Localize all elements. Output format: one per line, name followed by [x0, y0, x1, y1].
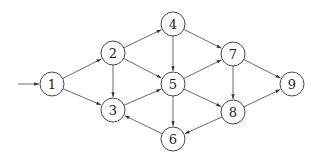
edge-4-to-7 — [184, 29, 222, 48]
directed-graph-diagram: 123456789 — [0, 0, 321, 165]
node-label: 6 — [169, 132, 177, 147]
edge-7-to-9 — [244, 59, 281, 78]
node-4: 4 — [161, 12, 185, 36]
node-3: 3 — [101, 98, 125, 122]
node-label: 2 — [109, 46, 117, 61]
edge-5-to-7 — [184, 60, 222, 79]
node-label: 5 — [169, 77, 177, 92]
node-label: 9 — [288, 77, 296, 92]
node-label: 3 — [109, 103, 117, 118]
node-5: 5 — [161, 72, 185, 96]
node-8: 8 — [221, 100, 245, 124]
node-label: 4 — [169, 17, 177, 32]
node-layer: 123456789 — [40, 12, 304, 151]
node-7: 7 — [221, 42, 245, 66]
node-9: 9 — [280, 72, 304, 96]
edge-2-to-4 — [124, 30, 161, 48]
edge-5-to-8 — [184, 89, 221, 106]
node-label: 1 — [48, 77, 56, 92]
edge-1-to-2 — [63, 59, 102, 79]
edge-8-to-6 — [185, 117, 222, 134]
node-6: 6 — [161, 127, 185, 151]
edge-6-to-3 — [125, 116, 162, 134]
edge-8-to-9 — [244, 90, 280, 107]
edge-2-to-5 — [124, 59, 162, 79]
node-label: 7 — [229, 47, 237, 62]
node-2: 2 — [101, 41, 125, 65]
edge-3-to-5 — [124, 89, 161, 105]
node-label: 8 — [229, 105, 237, 120]
node-1: 1 — [40, 72, 64, 96]
edge-1-to-3 — [63, 89, 101, 105]
